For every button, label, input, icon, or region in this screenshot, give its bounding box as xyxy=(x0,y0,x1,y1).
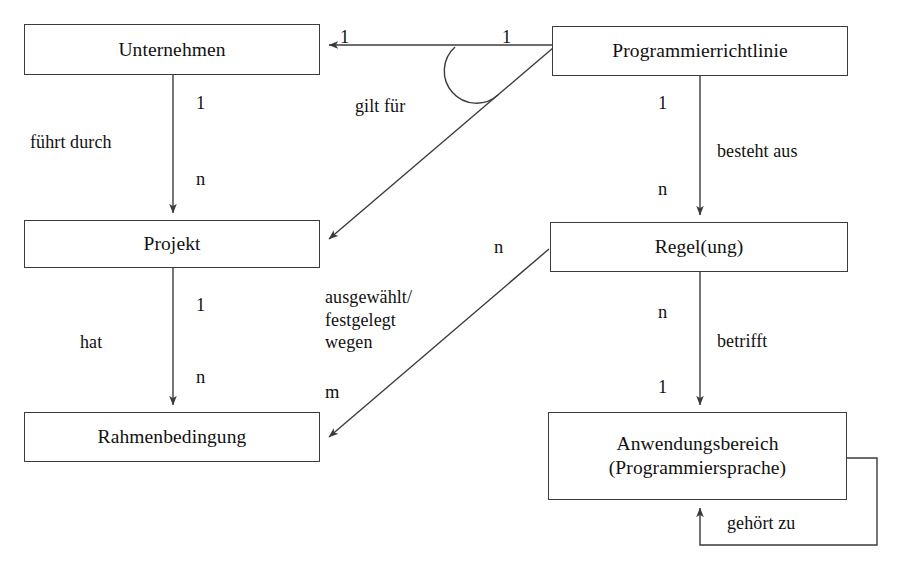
entity-projekt[interactable]: Projekt xyxy=(24,220,320,268)
cardinality-besteht-aus-n: n xyxy=(658,180,667,199)
relationship-label-hat: hat xyxy=(80,331,102,354)
cardinality-projekt-rahmenbedingung-n: n xyxy=(196,368,205,387)
relationship-label-betrifft: betrifft xyxy=(717,330,767,353)
entity-programmierrichtlinie[interactable]: Programmierrichtlinie xyxy=(552,26,848,76)
entity-anwendungsbereich-label: Anwendungsbereich (Programmiersprache) xyxy=(609,432,786,480)
entity-regelung-label: Regel(ung) xyxy=(655,235,744,259)
entity-regelung[interactable]: Regel(ung) xyxy=(550,222,848,272)
relationship-label-gehoert-zu: gehört zu xyxy=(727,512,795,535)
er-diagram-canvas: Unternehmen Programmierrichtlinie Projek… xyxy=(0,0,901,573)
entity-programmierrichtlinie-label: Programmierrichtlinie xyxy=(612,39,787,63)
cardinality-ausgewaehlt-source-n: n xyxy=(494,238,503,257)
cardinality-gilt-fuer-target-1: 1 xyxy=(340,28,349,47)
relationship-label-fuehrt-durch: führt durch xyxy=(30,131,112,154)
cardinality-unternehmen-projekt-1: 1 xyxy=(196,94,205,113)
cardinality-gilt-fuer-source-1: 1 xyxy=(502,28,511,47)
entity-rahmenbedingung-label: Rahmenbedingung xyxy=(98,425,247,449)
line-hop-arc xyxy=(444,47,498,103)
cardinality-projekt-rahmenbedingung-1: 1 xyxy=(196,296,205,315)
cardinality-unternehmen-projekt-n: n xyxy=(196,170,205,189)
cardinality-betrifft-n: n xyxy=(658,303,667,322)
entity-unternehmen[interactable]: Unternehmen xyxy=(24,24,320,75)
cardinality-betrifft-1: 1 xyxy=(658,378,667,397)
cardinality-besteht-aus-1: 1 xyxy=(658,94,667,113)
entity-unternehmen-label: Unternehmen xyxy=(118,38,225,62)
cardinality-ausgewaehlt-target-m: m xyxy=(325,383,339,402)
relationship-label-ausgewaehlt-festgelegt-wegen: ausgewählt/ festgelegt wegen xyxy=(325,286,412,354)
relationship-label-gilt-fuer: gilt für xyxy=(355,95,405,118)
edge-programmierrichtlinie-projekt xyxy=(329,48,553,239)
entity-anwendungsbereich[interactable]: Anwendungsbereich (Programmiersprache) xyxy=(548,412,847,500)
entity-projekt-label: Projekt xyxy=(143,232,200,256)
relationship-label-besteht-aus: besteht aus xyxy=(717,140,798,163)
entity-rahmenbedingung[interactable]: Rahmenbedingung xyxy=(24,412,320,462)
